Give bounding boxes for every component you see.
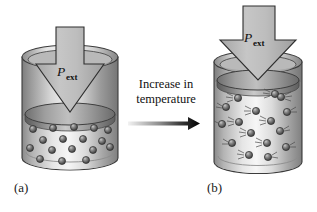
- particle: [107, 144, 114, 151]
- particle: [40, 137, 47, 144]
- panel-a-label: (a): [14, 180, 28, 196]
- pressure-label-b-symbol: P: [243, 30, 252, 45]
- pressure-label-a-subscript: ext: [66, 72, 78, 82]
- particle: [49, 147, 56, 154]
- transition-arrow-shape: [128, 117, 200, 130]
- particle: [60, 136, 67, 143]
- particle: [59, 158, 66, 165]
- particle: [69, 146, 76, 153]
- panel-a: P ext: [22, 27, 118, 170]
- particle: [50, 125, 57, 132]
- particle: [80, 136, 87, 143]
- pressure-label-b-subscript: ext: [253, 38, 265, 48]
- particle: [105, 127, 112, 134]
- transition-caption-line-1: Increase in: [126, 77, 206, 92]
- transition-arrow: [128, 117, 200, 130]
- particle: [71, 124, 78, 131]
- particle: [99, 138, 106, 145]
- pressure-label-a-symbol: P: [56, 64, 65, 79]
- panel-b: P ext: [214, 6, 302, 174]
- particle: [91, 125, 98, 132]
- panel-b-label: (b): [207, 180, 222, 196]
- particle: [27, 145, 34, 152]
- transition-caption-line-2: temperature: [126, 92, 206, 107]
- particle: [30, 126, 37, 133]
- particle: [90, 147, 97, 154]
- particle: [37, 156, 44, 163]
- particle: [83, 157, 90, 164]
- transition-caption: Increase in temperature: [126, 77, 206, 107]
